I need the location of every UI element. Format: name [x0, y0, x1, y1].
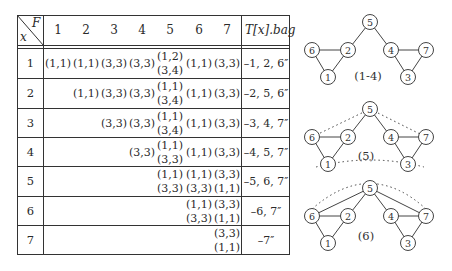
cell-value: (1,1) — [154, 110, 186, 124]
edge — [312, 50, 328, 77]
edge — [391, 137, 408, 164]
graph-node — [363, 15, 378, 30]
graph-caption: (1-4) — [354, 69, 382, 83]
cell-value: (3,3) — [154, 182, 186, 196]
table-cell: (3,3) — [211, 57, 243, 71]
node-label: 1 — [325, 72, 331, 83]
row-x-label: 4 — [17, 146, 44, 159]
cell-value: (3,3) — [211, 146, 243, 160]
row-x-label: 1 — [17, 57, 44, 70]
dotted-edge — [312, 184, 426, 210]
bag-value: –2, 5, 6″ — [243, 87, 289, 100]
cell-value: (3,4) — [154, 94, 186, 108]
row-x-label: 3 — [17, 117, 44, 130]
corner-label-f: F — [32, 17, 40, 30]
cell-value: (1,1) — [154, 139, 186, 153]
graph-node — [401, 236, 416, 251]
edge — [348, 188, 370, 216]
graph-node — [419, 209, 434, 224]
col-header-4: 4 — [137, 24, 147, 37]
graph-node — [401, 157, 416, 172]
graph-node — [321, 236, 336, 251]
row-x-label: 7 — [17, 234, 44, 247]
edge — [391, 50, 408, 77]
bag-value: –3, 4, 7″ — [243, 117, 289, 130]
edge — [328, 50, 348, 77]
graph-node — [341, 209, 356, 224]
row-x-label: 5 — [17, 175, 44, 188]
node-label: 5 — [367, 17, 373, 28]
graph-node — [305, 209, 320, 224]
cell-value: (3,3) — [211, 87, 243, 101]
edge — [391, 216, 408, 243]
table-cell: (3,3)(1,1) — [211, 227, 243, 255]
cell-value: (1,2) — [154, 50, 186, 64]
table-cell: (3,3) — [211, 146, 243, 160]
table-cell: (3,3) — [211, 87, 243, 101]
edge — [348, 109, 370, 137]
cell-value: (1,1) — [211, 212, 243, 226]
bag-value: –4, 5, 7″ — [243, 146, 289, 159]
node-label: 2 — [345, 211, 351, 222]
node-label: 6 — [309, 132, 315, 143]
cell-value: (3,3) — [211, 198, 243, 212]
graph-node — [341, 130, 356, 145]
row-x-label: 6 — [17, 205, 44, 218]
bag-value: –1, 2, 6″ — [243, 57, 289, 70]
table-cell: (3,3)(1,1) — [211, 198, 243, 226]
node-label: 7 — [423, 211, 429, 222]
bag-value: –7″ — [243, 234, 289, 247]
node-label: 7 — [423, 132, 429, 143]
cell-value: (1,1) — [211, 241, 243, 255]
graph-node — [363, 102, 378, 117]
graph-node — [401, 70, 416, 85]
edge — [370, 22, 391, 50]
bag-header: T[x].bag — [245, 24, 289, 37]
graph-node — [321, 70, 336, 85]
row-x-label: 2 — [17, 87, 44, 100]
table-cell: (1,2)(3,4) — [154, 50, 186, 78]
node-label: 6 — [309, 45, 315, 56]
table-cell: (1,1)(3,4) — [154, 80, 186, 108]
edge — [370, 109, 391, 137]
cell-value: (3,3) — [211, 227, 243, 241]
cell-value: (1,1) — [154, 168, 186, 182]
edge — [408, 50, 426, 77]
bag-value: –6, 7″ — [243, 205, 289, 218]
edge — [348, 22, 370, 50]
dotted-edge — [312, 109, 370, 137]
graph-1: 1234567(1-4) — [305, 15, 434, 85]
node-label: 2 — [345, 132, 351, 143]
table-cell: (1,1)(3,3) — [154, 168, 186, 196]
edge — [408, 216, 426, 243]
node-label: 4 — [388, 45, 394, 56]
graph-node — [363, 181, 378, 196]
cell-value: (3,3) — [211, 57, 243, 71]
table-cell: (1,1)(3,3) — [154, 139, 186, 167]
dp-table: F x 1 2 3 4 5 6 7 T[x].bag 1(1,1)(1,1)(3… — [17, 15, 290, 255]
node-label: 4 — [388, 132, 394, 143]
edge — [408, 137, 426, 164]
edge — [328, 216, 348, 243]
graph-node — [384, 209, 399, 224]
node-label: 5 — [367, 104, 373, 115]
edge — [328, 137, 348, 164]
graph-3: 1234567(6) — [305, 181, 434, 251]
node-label: 7 — [423, 45, 429, 56]
cell-value: (3,3) — [211, 117, 243, 131]
node-label: 1 — [325, 159, 331, 170]
node-label: 6 — [309, 211, 315, 222]
col-header-3: 3 — [109, 24, 119, 37]
node-label: 3 — [405, 72, 411, 83]
graph-node — [321, 157, 336, 172]
dotted-edge — [316, 160, 424, 167]
edge — [370, 188, 426, 216]
table-cell: (1,1)(3,4) — [154, 110, 186, 138]
cell-value: (3,3) — [154, 153, 186, 167]
cell-value: (3,4) — [154, 124, 186, 138]
col-header-5: 5 — [165, 24, 175, 37]
table-cell: (3,3) — [211, 117, 243, 131]
node-label: 3 — [405, 238, 411, 249]
dotted-edge — [370, 109, 426, 137]
col-header-6: 6 — [194, 24, 204, 37]
